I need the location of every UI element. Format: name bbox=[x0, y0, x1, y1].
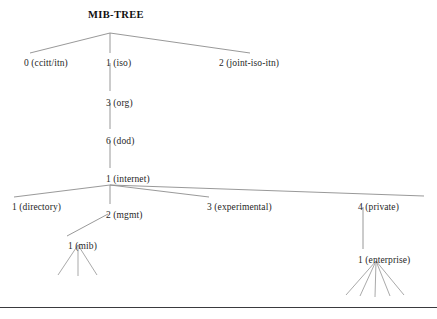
tree-edge-canvas bbox=[0, 0, 437, 319]
edge-root-junction-to-ccitt bbox=[30, 33, 110, 53]
node-label-iso: 1 (iso) bbox=[106, 58, 131, 69]
leaf-stub-enterprise-3 bbox=[375, 261, 376, 297]
edge-internet-to-directory bbox=[14, 185, 110, 197]
leaf-stub-enterprise-4 bbox=[376, 261, 390, 296]
leaf-stub-enterprise-2 bbox=[360, 261, 376, 296]
node-label-joint: 2 (joint-iso-itn) bbox=[219, 58, 279, 69]
node-label-experimental: 3 (experimental) bbox=[207, 202, 272, 213]
node-label-private: 4 (private) bbox=[358, 202, 399, 213]
node-label-mib: 1 (mib) bbox=[68, 241, 97, 252]
node-label-mgmt: 2 (mgmt) bbox=[106, 210, 142, 221]
leaf-stub-enterprise-5 bbox=[376, 261, 404, 295]
node-label-org: 3 (org) bbox=[106, 98, 133, 109]
leaf-stub-enterprise-1 bbox=[346, 261, 376, 295]
mib-tree-diagram: MIB-TREE 0 (ccitt/itn)1 (iso)2 (joint-is… bbox=[0, 0, 437, 319]
node-label-directory: 1 (directory) bbox=[12, 202, 61, 213]
edge-root-junction-to-joint bbox=[110, 33, 250, 53]
bottom-divider-rule bbox=[0, 307, 437, 308]
node-label-ccitt: 0 (ccitt/itn) bbox=[24, 58, 68, 69]
node-label-dod: 6 (dod) bbox=[106, 136, 134, 147]
node-label-internet: 1 (internet) bbox=[106, 174, 150, 185]
node-label-enterprise: 1 (enterprise) bbox=[358, 255, 410, 266]
edge-mgmt-to-mib bbox=[67, 214, 108, 236]
leaf-stub-group bbox=[58, 245, 404, 297]
